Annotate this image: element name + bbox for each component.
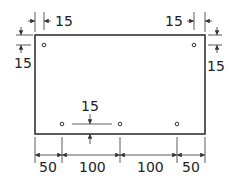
hole-bottom-2 [118,122,122,126]
dim-label-top-right-h: 15 [165,13,183,29]
dim-label-top-right-v: 15 [207,58,225,74]
dim-label-top-left-h: 15 [55,13,73,29]
dim-label-top-left-v: 15 [14,55,32,71]
technical-drawing: 15 15 15 15 15 50 100 100 50 [0,0,236,183]
plate-outline [35,35,205,134]
holes [42,43,196,126]
dim-label-bottom-offset: 15 [81,98,99,114]
hole-top-right [192,43,196,47]
hole-top-left [42,43,46,47]
hole-bottom-3 [175,122,179,126]
dim-label-chain-3: 100 [137,159,164,175]
dim-label-chain-2: 100 [79,159,106,175]
dim-label-chain-4: 50 [182,159,200,175]
hole-bottom-1 [60,122,64,126]
dim-label-chain-1: 50 [39,159,57,175]
